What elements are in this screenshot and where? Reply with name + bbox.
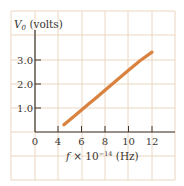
data-line — [64, 52, 152, 125]
x-tick-label: 8 — [102, 136, 108, 147]
y-tick-label: 3.0 — [17, 55, 33, 66]
x-tick-label: 6 — [78, 136, 84, 147]
y-tick-label: 2.0 — [17, 79, 33, 90]
y-tick-label: 1.0 — [17, 103, 33, 114]
x-tick-label: 12 — [146, 136, 159, 147]
x-tick-label: 0 — [32, 136, 38, 147]
ticks: 1.02.03.004681012 — [17, 55, 158, 148]
x-tick-label: 4 — [55, 136, 61, 147]
y-axis-label: V0 (volts) — [14, 18, 63, 32]
x-tick-label: 10 — [122, 136, 135, 147]
x-axis-label: f × 10−14 (Hz) — [65, 150, 139, 162]
chart: 1.02.03.004681012 V0 (volts) f × 10−14 (… — [0, 0, 184, 186]
